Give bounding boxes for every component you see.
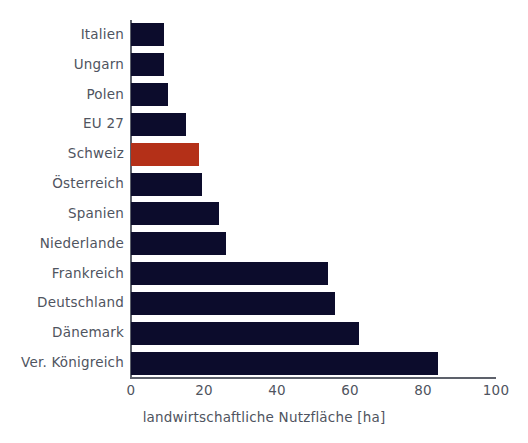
x-tick-label: 100 (483, 382, 509, 398)
bar-row (131, 318, 496, 348)
y-axis-label: Österreich (0, 177, 124, 191)
bar-ungarn (131, 53, 164, 76)
bar-row (131, 139, 496, 169)
bar-row (131, 80, 496, 110)
y-axis-label: Schweiz (0, 147, 124, 161)
bar-ver-k-nigreich (131, 352, 438, 375)
x-tick-label: 60 (341, 382, 359, 398)
bar-row (131, 50, 496, 80)
y-axis-label: Dänemark (0, 326, 124, 340)
bar-polen (131, 83, 168, 106)
bar-niederlande (131, 232, 226, 255)
bar-italien (131, 23, 164, 46)
y-axis-label: Polen (0, 88, 124, 102)
bar-row (131, 20, 496, 50)
bar-row (131, 259, 496, 289)
x-tick-label: 0 (127, 382, 136, 398)
y-axis-label: EU 27 (0, 117, 124, 131)
x-axis-tick-labels: 020406080100 (0, 382, 528, 404)
y-axis-label: Ver. Königreich (0, 356, 124, 370)
bar-row (131, 110, 496, 140)
x-tick-label: 40 (268, 382, 286, 398)
bar-schweiz (131, 143, 199, 166)
x-tick-label: 80 (414, 382, 432, 398)
x-tick-label: 20 (195, 382, 213, 398)
bar-row (131, 169, 496, 199)
y-axis-label: Spanien (0, 207, 124, 221)
y-axis-category-labels: ItalienUngarnPolenEU 27SchweizÖsterreich… (0, 20, 124, 378)
bar-spanien (131, 202, 219, 225)
bar-sterreich (131, 173, 202, 196)
bar-row (131, 199, 496, 229)
y-axis-label: Frankreich (0, 267, 124, 281)
x-axis-title: landwirtschaftliche Nutzfläche [ha] (0, 409, 528, 425)
plot-area (131, 20, 496, 378)
bar-frankreich (131, 262, 328, 285)
bar-chart: ItalienUngarnPolenEU 27SchweizÖsterreich… (0, 0, 528, 443)
y-axis-label: Ungarn (0, 58, 124, 72)
bar-row (131, 289, 496, 319)
bar-eu-27 (131, 113, 186, 136)
bar-row (131, 348, 496, 378)
bar-d-nemark (131, 322, 359, 345)
bar-deutschland (131, 292, 335, 315)
y-axis-label: Italien (0, 28, 124, 42)
bar-row (131, 229, 496, 259)
y-axis-label: Niederlande (0, 237, 124, 251)
y-axis-label: Deutschland (0, 296, 124, 310)
